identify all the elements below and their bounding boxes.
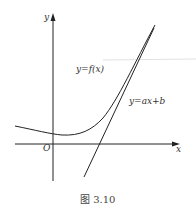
y-axis-label: y [44,12,49,22]
figure-caption: 图 3.10 [80,191,115,206]
graph-canvas [0,0,196,211]
x-axis-label: x [176,144,181,154]
curve-label: y=f(x) [76,64,104,74]
origin-label: O [43,143,50,153]
y-axis-arrow-icon [51,13,56,21]
curve-f [15,25,155,135]
line-label: y=ax+b [129,96,165,106]
guide-line [103,59,196,60]
